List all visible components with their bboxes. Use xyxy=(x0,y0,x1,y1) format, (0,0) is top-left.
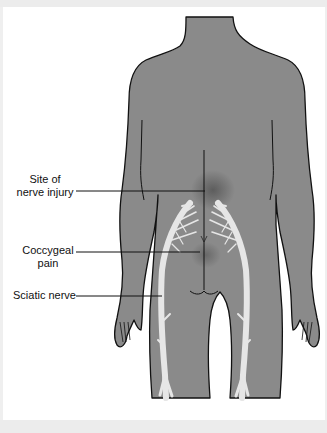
label-coccygeal-pain: Coccygeal pain xyxy=(20,244,76,270)
label-line: Sciatic nerve xyxy=(8,289,76,302)
label-line: pain xyxy=(20,257,76,270)
label-sciatic-nerve: Sciatic nerve xyxy=(8,289,76,302)
label-line: Site of xyxy=(14,173,76,186)
body-figure xyxy=(0,0,327,433)
nerve-injury-glow xyxy=(191,170,235,210)
coccygeal-pain-glow xyxy=(191,242,221,268)
label-line: Coccygeal xyxy=(20,244,76,257)
label-site-of-nerve-injury: Site of nerve injury xyxy=(14,173,76,199)
label-line: nerve injury xyxy=(14,186,76,199)
